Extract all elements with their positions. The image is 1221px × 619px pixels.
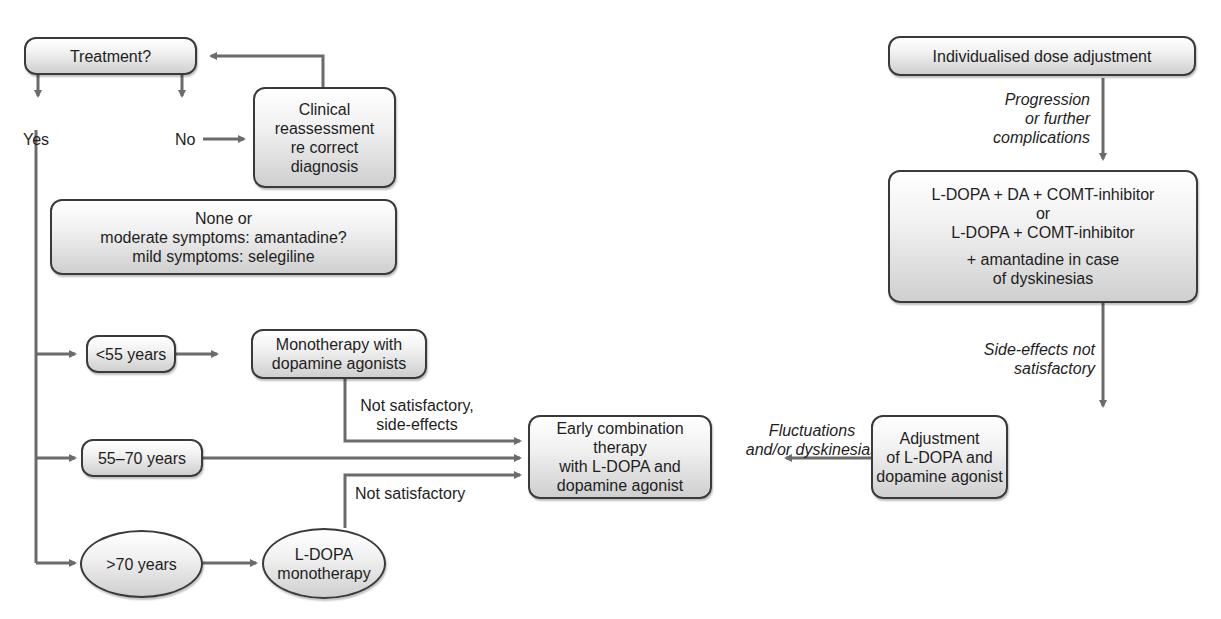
- comt-line-5: of dyskinesias: [993, 269, 1094, 288]
- over-70-label: >70 years: [106, 555, 177, 574]
- none-or-line-2: moderate symptoms: amantadine?: [100, 228, 346, 247]
- comt-inhibitor-node: L-DOPA + DA + COMT-inhibitor or L-DOPA +…: [888, 170, 1198, 303]
- comt-line-1: L-DOPA + DA + COMT-inhibitor: [932, 185, 1155, 204]
- age-55-70-node: 55–70 years: [81, 439, 203, 477]
- clinical-line-4: diagnosis: [291, 157, 359, 176]
- under-55-label: <55 years: [96, 345, 167, 364]
- ldopa-mono-line-2: monotherapy: [277, 564, 370, 583]
- individualised-dose-node: Individualised dose adjustment: [888, 36, 1196, 76]
- not-satisfactory-side-effects-label: Not satisfactory, side-effects: [352, 396, 482, 434]
- fluctuations-line-1: Fluctuations: [737, 421, 887, 440]
- none-or-line-3: mild symptoms: selegiline: [132, 247, 314, 266]
- comt-line-2: or: [1036, 204, 1050, 223]
- fluctuations-label: Fluctuations and/or dyskinesias: [737, 421, 887, 459]
- fluctuations-line-2: and/or dyskinesias: [737, 440, 887, 459]
- adjustment-line-1: Adjustment: [899, 429, 979, 448]
- over-70-node: >70 years: [80, 530, 203, 598]
- not-sat-side-line-1: Not satisfactory,: [352, 396, 482, 415]
- none-or-line-1: None or: [195, 209, 252, 228]
- mono-da-line-2: dopamine agonists: [272, 354, 406, 373]
- clinical-line-1: Clinical: [299, 100, 351, 119]
- ldopa-mono-line-1: L-DOPA: [295, 545, 353, 564]
- no-label: No: [175, 130, 195, 149]
- individualised-label: Individualised dose adjustment: [933, 47, 1152, 66]
- side-effects-not-satisfactory-label: Side-effects not satisfactory: [960, 340, 1095, 378]
- treatment-node: Treatment?: [24, 37, 197, 75]
- monotherapy-dopamine-agonists-node: Monotherapy with dopamine agonists: [251, 329, 427, 379]
- adjustment-line-2: of L-DOPA and: [886, 448, 992, 467]
- side-effects-line-2: satisfactory: [960, 359, 1095, 378]
- none-or-symptoms-node: None or moderate symptoms: amantadine? m…: [50, 199, 397, 275]
- ldopa-monotherapy-node: L-DOPA monotherapy: [262, 528, 386, 599]
- early-combo-line-2: with L-DOPA and: [559, 457, 681, 476]
- adjustment-node: Adjustment of L-DOPA and dopamine agonis…: [871, 415, 1008, 499]
- mono-da-line-1: Monotherapy with: [276, 335, 402, 354]
- progression-label: Progression or further complications: [980, 90, 1090, 147]
- adjustment-line-3: dopamine agonist: [876, 467, 1002, 486]
- yes-label: Yes: [23, 130, 49, 149]
- age-55-70-label: 55–70 years: [98, 449, 186, 468]
- progression-line-1: Progression: [980, 90, 1090, 109]
- progression-line-3: complications: [980, 128, 1090, 147]
- not-satisfactory-label: Not satisfactory: [355, 484, 465, 503]
- clinical-line-3: re correct: [291, 138, 359, 157]
- progression-line-2: or further: [980, 109, 1090, 128]
- under-55-node: <55 years: [86, 335, 176, 373]
- early-combination-therapy-node: Early combination therapy with L-DOPA an…: [528, 415, 712, 499]
- comt-line-3: L-DOPA + COMT-inhibitor: [951, 223, 1134, 242]
- not-sat-side-line-2: side-effects: [352, 415, 482, 434]
- early-combo-line-3: dopamine agonist: [557, 476, 683, 495]
- early-combo-line-1: Early combination therapy: [530, 419, 710, 457]
- comt-line-4: + amantadine in case: [967, 250, 1120, 269]
- side-effects-line-1: Side-effects not: [960, 340, 1095, 359]
- treatment-label: Treatment?: [70, 47, 151, 66]
- clinical-line-2: reassessment: [275, 119, 375, 138]
- clinical-reassessment-node: Clinical reassessment re correct diagnos…: [253, 87, 396, 188]
